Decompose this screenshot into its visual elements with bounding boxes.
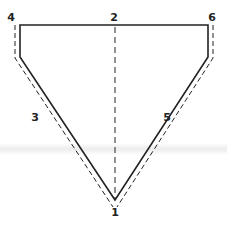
label-5: 5 <box>163 111 171 124</box>
label-1: 1 <box>111 206 119 219</box>
label-3: 3 <box>31 111 39 124</box>
label-2: 2 <box>110 11 118 24</box>
fold-diagram: 1 2 3 4 5 6 <box>0 0 227 225</box>
label-4: 4 <box>7 11 15 24</box>
label-6: 6 <box>208 11 216 24</box>
solid-outline <box>20 25 208 200</box>
dashed-outline-left <box>15 25 113 207</box>
